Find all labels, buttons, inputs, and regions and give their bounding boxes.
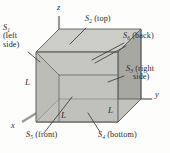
surface-s6-subscript: 6 bbox=[127, 35, 130, 41]
surface-s3-line2: side) bbox=[126, 73, 149, 81]
surface-s4-subscript: 4 bbox=[102, 134, 105, 140]
surface-s4-bottom: S4 (bottom) bbox=[98, 131, 137, 140]
surface-s1-line2: side) bbox=[3, 40, 19, 49]
surface-s2-top: S2 (top) bbox=[85, 15, 111, 24]
surface-s3-right: S3 (right side) bbox=[126, 65, 168, 82]
surface-s3-subscript: 3 bbox=[130, 68, 133, 74]
surface-s4-desc: (bottom) bbox=[107, 130, 136, 139]
surface-s2-subscript: 2 bbox=[89, 18, 92, 24]
z-axis-label: z bbox=[57, 3, 60, 12]
cube-gaussian-surface-figure: z y x S1 (left side) S2 (top) S6 (back) … bbox=[0, 0, 170, 153]
cube-front-face bbox=[36, 52, 118, 122]
edge-length-right: L bbox=[108, 105, 113, 115]
surface-s1-subscript: 1 bbox=[7, 27, 10, 33]
edge-length-front: L bbox=[61, 110, 66, 120]
x-axis-label: x bbox=[11, 121, 15, 130]
surface-s1-left: S1 (left side) bbox=[3, 24, 37, 49]
surface-s6-desc: (back) bbox=[132, 31, 154, 40]
edge-length-left: L bbox=[25, 77, 30, 87]
surface-s5-front: S5 (front) bbox=[26, 131, 57, 140]
surface-s2-desc: (top) bbox=[94, 14, 110, 23]
surface-s5-desc: (front) bbox=[35, 130, 57, 139]
y-axis-label: y bbox=[155, 90, 159, 99]
surface-s5-subscript: 5 bbox=[30, 134, 33, 140]
surface-s6-back: S6 (back) bbox=[123, 32, 154, 41]
